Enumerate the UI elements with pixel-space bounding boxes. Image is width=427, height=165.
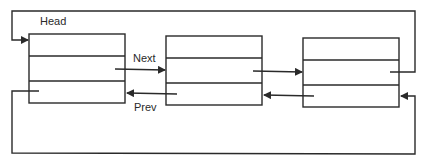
linked-list-diagram: Head Next Prev	[0, 0, 427, 165]
node-3	[303, 38, 399, 107]
prev-arrow-2-1	[127, 93, 177, 94]
bottom-loop-arrow	[12, 91, 415, 154]
prev-arrow-3-2	[264, 95, 314, 96]
top-loop-arrow	[12, 11, 415, 72]
node-2	[166, 36, 262, 105]
next-arrow-2-3	[253, 71, 302, 72]
prev-label: Prev	[134, 101, 157, 113]
head-label: Head	[40, 15, 66, 27]
next-label: Next	[133, 52, 156, 64]
node-1	[29, 34, 125, 103]
next-arrow-1-2	[115, 69, 165, 70]
